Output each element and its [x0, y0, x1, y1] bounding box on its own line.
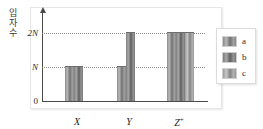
bar-z-a	[167, 32, 176, 101]
bar-z-c	[185, 32, 194, 101]
x-tick-y-base: Y	[126, 116, 132, 127]
legend-item-c: c	[220, 65, 252, 81]
y-tick-0: 0	[34, 96, 39, 106]
bar-group-z	[161, 12, 199, 101]
legend-label-b: b	[242, 52, 247, 62]
legend-swatch-b-icon	[222, 52, 237, 63]
y-axis-label-char-1: 입	[5, 8, 21, 18]
y-tick-n: N	[32, 62, 38, 72]
y-tick-2n: 2N	[27, 28, 38, 38]
legend-item-a: a	[220, 33, 252, 49]
y-axis-label-char-3: 수	[5, 28, 21, 38]
bar-groups	[43, 12, 208, 101]
x-tick-x-base: X	[74, 116, 80, 127]
bar-y-b	[126, 32, 135, 101]
plot-area: 0 N 2N X	[42, 12, 208, 102]
legend: a b c	[216, 28, 256, 84]
legend-label-a: a	[242, 36, 246, 46]
legend-swatch-a-icon	[222, 36, 237, 47]
x-tick-x: X	[58, 116, 96, 127]
x-tick-z: Z+	[160, 116, 198, 128]
bar-group-y	[111, 12, 149, 101]
legend-label-c: c	[242, 68, 246, 78]
x-tick-y: Y	[110, 116, 148, 127]
bar-x-b	[74, 66, 83, 101]
x-axis-line	[42, 101, 208, 102]
legend-swatch-c-icon	[222, 68, 237, 79]
bar-z-b	[176, 32, 185, 101]
y-axis-label-char-2: 자	[5, 18, 21, 28]
legend-item-b: b	[220, 49, 252, 65]
bar-x-a	[65, 66, 74, 101]
bar-y-a	[117, 66, 126, 101]
chart-root: 입 자 수 0 N 2N	[0, 0, 263, 129]
bar-group-x	[59, 12, 97, 101]
x-tick-z-superscript: +	[180, 116, 184, 124]
y-axis-label: 입 자 수	[5, 8, 21, 38]
